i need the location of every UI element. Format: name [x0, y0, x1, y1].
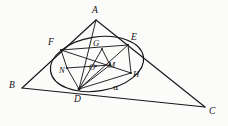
point-label-O: O — [89, 63, 95, 72]
segment-chord-N-D — [67, 68, 79, 89]
point-label-M: M — [108, 61, 115, 70]
point-label-E: E — [131, 33, 137, 43]
point-label-G: G — [93, 39, 99, 48]
inner-cevians-and-chords — [61, 20, 131, 89]
point-label-D: D — [74, 95, 81, 105]
vertex-dot-O — [95, 65, 97, 67]
segment-chord-F-H — [61, 50, 131, 73]
point-label-H: H — [133, 70, 139, 79]
segment-cevian-A-D — [79, 20, 96, 89]
point-label-alpha: α — [113, 83, 119, 91]
point-label-N: N — [59, 66, 65, 75]
vertex-dot-F — [60, 49, 62, 51]
point-label-A: A — [92, 6, 98, 16]
vertex-dot-G — [101, 48, 103, 50]
point-label-B: B — [9, 81, 15, 91]
point-label-F: F — [48, 38, 54, 48]
point-label-C: C — [209, 107, 215, 117]
vertex-dot-N — [66, 67, 68, 69]
segment-chord-E-H — [128, 45, 131, 73]
vertex-dot-H — [130, 72, 132, 74]
vertex-dot-E — [127, 44, 129, 46]
vertex-dot-D — [78, 88, 81, 91]
geometry-figure: ABCDEFGHMNOα — [0, 0, 228, 126]
